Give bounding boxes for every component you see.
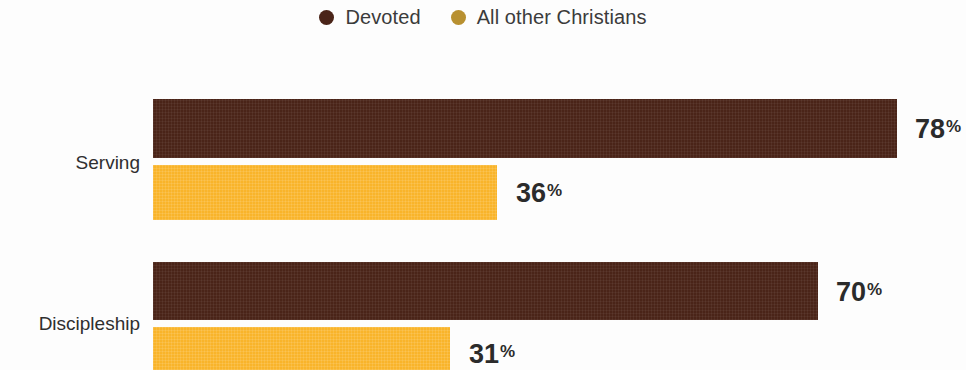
bar-chart: Devoted All other Christians Serving Dis…: [0, 0, 966, 370]
value-label-serving-all-other-christians: 36%: [516, 180, 562, 207]
value-number-discipleship-devoted: 70: [836, 277, 866, 307]
value-number-discipleship-all-other-christians: 31: [469, 339, 499, 369]
category-label-discipleship-box: Discipleship: [0, 313, 140, 335]
bar-serving-devoted: [153, 99, 897, 158]
category-label-serving: Serving: [0, 152, 140, 174]
percent-sign-serving-all-other-christians: %: [547, 181, 562, 200]
bar-serving-all-other-christians: [153, 165, 497, 220]
bar-discipleship-devoted: [153, 262, 818, 320]
percent-sign-serving-devoted: %: [946, 117, 961, 136]
value-label-serving-devoted: 78%: [915, 116, 961, 143]
category-label-discipleship: Discipleship: [0, 313, 140, 335]
category-label-serving-box: Serving: [0, 152, 140, 174]
value-number-serving-all-other-christians: 36: [516, 178, 546, 208]
value-number-serving-devoted: 78: [915, 114, 945, 144]
bar-discipleship-all-other-christians: [153, 327, 450, 370]
percent-sign-discipleship-devoted: %: [867, 280, 882, 299]
percent-sign-discipleship-all-other-christians: %: [500, 342, 515, 361]
plot-area: Serving Discipleship 78% 36% 70% 31%: [0, 0, 966, 370]
value-label-discipleship-devoted: 70%: [836, 279, 882, 306]
value-label-discipleship-all-other-christians: 31%: [469, 341, 515, 368]
